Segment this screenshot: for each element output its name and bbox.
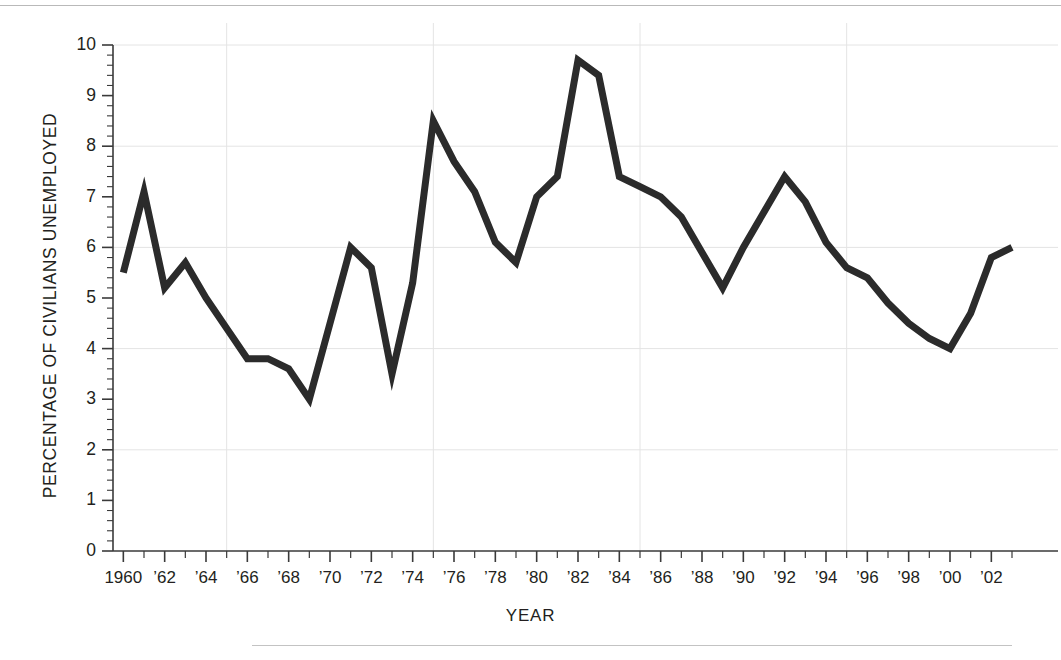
- y-tick-label: 10: [56, 36, 96, 54]
- y-tick-label: 0: [56, 542, 96, 560]
- bottom-divider-rule: [252, 645, 1012, 646]
- axis-tick-marks: [102, 45, 1012, 562]
- gridlines: [113, 23, 1058, 551]
- axis-lines: [113, 45, 1058, 551]
- y-tick-label: 8: [56, 137, 96, 155]
- y-tick-label: 1: [56, 491, 96, 509]
- y-tick-label: 3: [56, 390, 96, 408]
- top-divider-rule: [0, 5, 1061, 6]
- y-tick-label: 4: [56, 340, 96, 358]
- unemployment-line-chart: PERCENTAGE OF CIVILIANS UNEMPLOYED YEAR …: [0, 0, 1061, 660]
- y-tick-label: 2: [56, 441, 96, 459]
- x-tick-label: ’02: [961, 569, 1021, 586]
- y-tick-label: 9: [56, 87, 96, 105]
- x-axis-title: YEAR: [0, 606, 1061, 626]
- y-tick-label: 5: [56, 289, 96, 307]
- plot-area: [0, 0, 1061, 660]
- y-tick-label: 7: [56, 188, 96, 206]
- y-tick-label: 6: [56, 238, 96, 256]
